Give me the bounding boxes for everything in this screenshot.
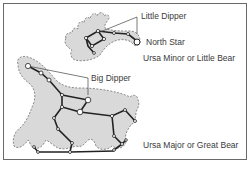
little-dipper-label: Little Dipper [141, 11, 186, 21]
big-dipper-label: Big Dipper [91, 73, 131, 83]
north-star-icon [134, 39, 140, 45]
ursa-major-label: Ursa Major or Great Bear [143, 140, 238, 150]
ursa-minor-label: Ursa Minor or Little Bear [143, 53, 235, 63]
ursa-major-silhouette [13, 56, 139, 149]
north-star-label: North Star [146, 37, 185, 47]
